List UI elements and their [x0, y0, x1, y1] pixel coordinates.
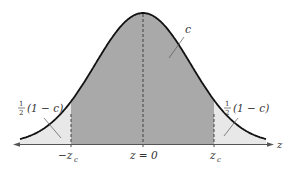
- svg-text:(1 − c): (1 − c): [233, 102, 269, 114]
- svg-text:c: c: [74, 156, 78, 164]
- svg-text:z: z: [209, 149, 216, 161]
- svg-text:2: 2: [225, 109, 229, 117]
- svg-text:1: 1: [19, 100, 23, 108]
- right-arrow-icon: [267, 142, 274, 146]
- svg-text:1: 1: [225, 100, 229, 108]
- center-area-label: c: [185, 23, 191, 36]
- left-critical-label: −z c: [58, 149, 78, 164]
- svg-text:−z: −z: [58, 149, 73, 161]
- center-label: z = 0: [129, 149, 158, 161]
- right-tail-label: 1 2 (1 − c): [224, 100, 269, 117]
- center-area: [71, 13, 214, 144]
- svg-text:c: c: [217, 156, 221, 164]
- normal-curve-diagram: z c 1 2 (1 − c) 1 2 (1 − c) −z c z = 0 z…: [0, 0, 304, 173]
- axis-label: z: [276, 139, 283, 150]
- right-critical-label: z c: [209, 149, 221, 164]
- left-arrow-icon: [13, 142, 20, 146]
- svg-text:(1 − c): (1 − c): [27, 102, 63, 114]
- left-tail-label: 1 2 (1 − c): [18, 100, 63, 117]
- svg-text:2: 2: [19, 109, 23, 117]
